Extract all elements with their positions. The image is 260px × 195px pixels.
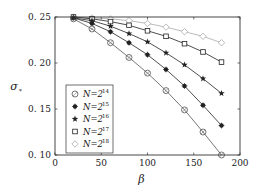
y-tick-label: 0. 20 xyxy=(28,58,51,68)
legend-label: N=2 xyxy=(82,114,103,124)
filled-dot-marker-icon xyxy=(126,40,132,46)
legend: N=214N=215N=216N=217N=218 xyxy=(66,85,113,153)
star-marker-icon xyxy=(126,30,132,36)
legend-label: N=2 xyxy=(82,127,103,137)
square-open-marker-icon xyxy=(145,29,150,34)
diamond-open-marker-icon xyxy=(181,29,187,35)
legend-exponent: 17 xyxy=(102,126,109,132)
diamond-open-marker-icon xyxy=(144,20,150,26)
square-open-marker-icon xyxy=(127,23,132,28)
y-tick-label: 0. 10 xyxy=(28,150,51,160)
circle-open-marker-icon xyxy=(145,70,151,76)
star-marker-icon xyxy=(218,90,224,96)
x-axis-label: β xyxy=(137,173,144,186)
circle-open-marker-icon xyxy=(200,129,206,135)
y-tick-label: 0. 25 xyxy=(28,12,51,22)
star-marker-icon xyxy=(144,38,150,44)
legend-exponent: 18 xyxy=(102,138,109,144)
diamond-open-marker-icon xyxy=(163,24,169,30)
legend-exponent: 15 xyxy=(102,101,109,107)
circle-open-marker-icon xyxy=(89,26,95,32)
x-tick-label: 50 xyxy=(96,158,108,168)
circle-open-marker-icon xyxy=(182,107,188,113)
diamond-open-marker-icon xyxy=(200,33,206,39)
square-open-marker-icon xyxy=(164,34,169,39)
diamond-open-marker-icon xyxy=(218,40,224,46)
y-tick-label: 0. 15 xyxy=(28,104,51,114)
filled-dot-marker-icon xyxy=(108,29,114,35)
square-open-marker-icon xyxy=(73,129,78,134)
legend-exponent: 16 xyxy=(102,113,109,119)
legend-label: N=2 xyxy=(82,139,103,149)
legend-label: N=2 xyxy=(82,89,103,99)
x-tick-label: 0 xyxy=(52,158,58,168)
x-tick-label: 100 xyxy=(139,158,156,168)
square-open-marker-icon xyxy=(201,50,206,55)
line-chart: 0501001502000. 100. 150. 200. 25βσ* N=21… xyxy=(0,0,260,195)
y-axis-label: σ xyxy=(10,80,18,93)
x-tick-label: 150 xyxy=(185,158,202,168)
x-tick-label: 200 xyxy=(231,158,248,168)
circle-open-marker-icon xyxy=(108,40,114,46)
square-open-marker-icon xyxy=(182,41,187,46)
circle-open-marker-icon xyxy=(163,88,169,94)
axes: 0501001502000. 100. 150. 200. 25βσ* xyxy=(10,12,249,186)
legend-exponent: 14 xyxy=(102,88,109,94)
legend-label: N=2 xyxy=(82,102,103,112)
square-open-marker-icon xyxy=(219,60,224,65)
y-axis-label-subscript: * xyxy=(19,88,22,94)
circle-open-marker-icon xyxy=(126,54,132,60)
